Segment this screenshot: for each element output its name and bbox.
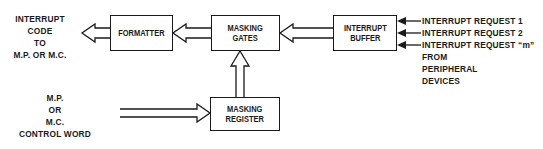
interrupt-request-list: INTERRUPT REQUEST 1 INTERRUPT REQUEST 2 … xyxy=(422,15,534,87)
inputs-source-line: FROM xyxy=(422,51,534,63)
arrowhead-request-1 xyxy=(397,17,406,25)
arrowhead-request-2 xyxy=(397,29,406,37)
arrowhead-request-m xyxy=(397,41,406,49)
output-label: INTERRUPT CODE TO M.P. OR M.C. xyxy=(5,13,75,61)
interrupt-request-1-label: INTERRUPT REQUEST 1 xyxy=(422,15,534,27)
interrupt-buffer-label-line: INTERRUPT xyxy=(344,23,387,33)
masking-register-block: MASKING REGISTER xyxy=(210,97,280,131)
interrupt-buffer-label-line: BUFFER xyxy=(344,33,387,43)
inputs-source-line: PERIPHERAL xyxy=(422,63,534,75)
arrow-buffer-to-gates xyxy=(280,24,333,42)
arrow-control-to-register xyxy=(120,104,210,122)
output-label-line: INTERRUPT xyxy=(5,13,75,25)
masking-gates-block: MASKING GATES xyxy=(211,15,280,51)
inputs-source-line: DEVICES xyxy=(422,75,534,87)
output-label-line: M.P. OR M.C. xyxy=(5,49,75,61)
formatter-label: FORMATTER xyxy=(118,28,164,38)
masking-gates-label-line: GATES xyxy=(228,33,263,43)
output-label-line: CODE xyxy=(5,25,75,37)
control-word-line: OR xyxy=(15,104,94,116)
output-label-line: TO xyxy=(5,37,75,49)
arrow-register-to-gates xyxy=(231,51,249,97)
interrupt-buffer-block: INTERRUPT BUFFER xyxy=(333,15,397,51)
masking-register-label-line: REGISTER xyxy=(226,114,264,124)
control-word-label: M.P. OR M.C. CONTROL WORD xyxy=(15,92,94,140)
arrow-formatter-to-output xyxy=(82,24,110,42)
interrupt-request-m-label: INTERRUPT REQUEST “m” xyxy=(422,39,534,51)
interrupt-request-2-label: INTERRUPT REQUEST 2 xyxy=(422,27,534,39)
masking-gates-label-line: MASKING xyxy=(228,23,263,33)
arrow-gates-to-formatter xyxy=(173,24,211,42)
control-word-line: M.C. xyxy=(15,116,94,128)
control-word-line: CONTROL WORD xyxy=(15,128,94,140)
masking-register-label-line: MASKING xyxy=(226,104,264,114)
formatter-block: FORMATTER xyxy=(110,15,173,51)
control-word-line: M.P. xyxy=(15,92,94,104)
